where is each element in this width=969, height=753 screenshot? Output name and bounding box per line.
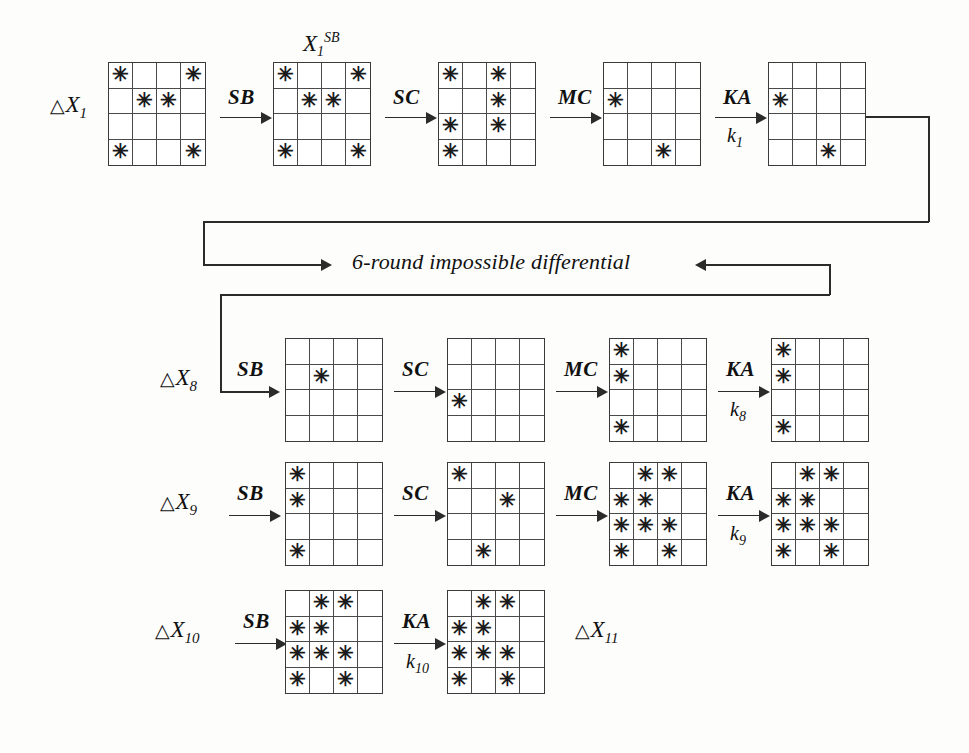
- grid-cell: ✳: [448, 390, 472, 416]
- grid-cell: ✳: [610, 514, 634, 540]
- grid-cell: [322, 63, 346, 89]
- grid-cell: [472, 365, 496, 391]
- grid-cell: [652, 63, 676, 89]
- grid-cell: [133, 63, 157, 89]
- grid-cell: [181, 114, 205, 140]
- grid-cell: ✳: [448, 617, 472, 643]
- active-byte-marker: ✳: [313, 618, 330, 638]
- grid-r1-sc: ✳✳✳✳✳✳: [438, 62, 536, 166]
- active-byte-marker: ✳: [499, 643, 516, 663]
- grid-cell: [496, 416, 520, 442]
- active-byte-marker: ✳: [475, 643, 492, 663]
- triangle-icon: △: [155, 620, 171, 641]
- grid-cell: ✳: [448, 642, 472, 668]
- active-byte-marker: ✳: [475, 541, 492, 561]
- grid-cell: [496, 514, 520, 540]
- grid-cell: ✳: [820, 514, 844, 540]
- arrow-r10-ka: [394, 643, 444, 644]
- grid-cell: [520, 514, 544, 540]
- grid-cell: ✳: [310, 617, 334, 643]
- grid-cell: ✳: [286, 642, 310, 668]
- op-label-r9-mc: MC: [564, 481, 598, 506]
- grid-cell: [841, 89, 865, 115]
- grid-cell: [463, 63, 487, 89]
- grid-cell: [796, 540, 820, 566]
- grid-r9-ka: ✳✳✳✳✳✳✳✳✳: [771, 462, 869, 566]
- grid-x1sb: ✳✳✳✳✳✳: [273, 62, 371, 166]
- active-byte-marker: ✳: [160, 90, 177, 110]
- grid-cell: ✳: [334, 668, 358, 694]
- grid-cell: [682, 540, 706, 566]
- grid-cell: [841, 140, 865, 166]
- grid-cell: [286, 339, 310, 365]
- grid-cell: ✳: [286, 489, 310, 515]
- grid-cell: [658, 390, 682, 416]
- active-byte-marker: ✳: [185, 141, 202, 161]
- grid-cell: ✳: [772, 365, 796, 391]
- grid-cell: [472, 390, 496, 416]
- grid-cell: [820, 390, 844, 416]
- grid-cell: ✳: [439, 140, 463, 166]
- arrow-r9-ka: [718, 515, 768, 516]
- grid-cell: [682, 365, 706, 391]
- op-label-r9-sc: SC: [402, 481, 429, 506]
- grid-cell: ✳: [634, 489, 658, 515]
- active-byte-marker: ✳: [775, 515, 792, 535]
- grid-cell: [511, 63, 535, 89]
- active-byte-marker: ✳: [775, 490, 792, 510]
- grid-cell: [628, 89, 652, 115]
- grid-cell: [820, 416, 844, 442]
- active-byte-marker: ✳: [313, 592, 330, 612]
- grid-cell: ✳: [286, 540, 310, 566]
- grid-cell: [358, 540, 382, 566]
- grid-cell: [844, 463, 868, 489]
- grid-cell: [358, 489, 382, 515]
- grid-cell: [310, 514, 334, 540]
- arrow-mid-left: [697, 264, 831, 266]
- op-label-r8-sb: SB: [237, 357, 264, 382]
- grid-cell: [844, 489, 868, 515]
- active-byte-marker: ✳: [490, 115, 507, 135]
- grid-cell: [496, 365, 520, 391]
- grid-cell: [511, 140, 535, 166]
- grid-cell: ✳: [181, 140, 205, 166]
- key-label-k10: k10: [406, 650, 429, 677]
- grid-cell: ✳: [610, 489, 634, 515]
- grid-cell: [463, 89, 487, 115]
- grid-cell: [448, 591, 472, 617]
- grid-cell: ✳: [610, 540, 634, 566]
- diagram-canvas: △X1 ✳✳✳✳✳✳ SB X1SB ✳✳✳✳✳✳ SC ✳✳✳✳✳✳ MC ✳…: [0, 0, 969, 753]
- label-delta-x8: △X8: [160, 365, 197, 395]
- grid-cell: [157, 63, 181, 89]
- grid-cell: ✳: [310, 642, 334, 668]
- active-byte-marker: ✳: [289, 669, 306, 689]
- grid-cell: [472, 339, 496, 365]
- op-label-r10-ka: KA: [402, 609, 431, 634]
- grid-cell: ✳: [820, 463, 844, 489]
- grid-cell: [820, 489, 844, 515]
- grid-cell: [682, 339, 706, 365]
- grid-cell: [448, 540, 472, 566]
- grid-cell: [844, 390, 868, 416]
- grid-cell: [841, 114, 865, 140]
- grid-cell: [511, 114, 535, 140]
- grid-cell: [610, 463, 634, 489]
- grid-cell: [841, 63, 865, 89]
- grid-r9-sb: ✳✳✳: [285, 462, 383, 566]
- grid-cell: [520, 642, 544, 668]
- label-delta-x11: △X11: [575, 617, 618, 647]
- grid-cell: [658, 416, 682, 442]
- grid-cell: [520, 463, 544, 489]
- active-byte-marker: ✳: [490, 64, 507, 84]
- grid-cell: ✳: [133, 89, 157, 115]
- grid-cell: ✳: [487, 114, 511, 140]
- connector-bottom-right-v: [829, 264, 831, 295]
- grid-cell: [844, 514, 868, 540]
- grid-r8-sc: ✳: [447, 338, 545, 442]
- op-label-r9-sb: SB: [237, 481, 264, 506]
- label-x1-sb: X1SB: [303, 30, 340, 60]
- grid-cell: [796, 390, 820, 416]
- grid-cell: ✳: [652, 140, 676, 166]
- active-byte-marker: ✳: [490, 90, 507, 110]
- grid-cell: [844, 365, 868, 391]
